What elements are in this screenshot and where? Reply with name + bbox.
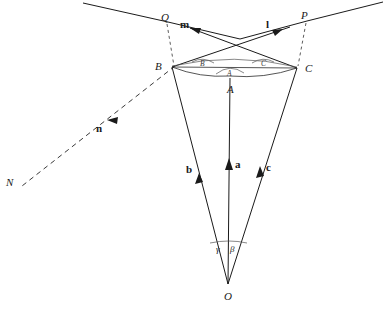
arrowhead-a [225, 158, 233, 170]
vector-label-l: l [266, 19, 269, 30]
point-label-N: N [6, 177, 13, 188]
point-label-A: A [227, 84, 234, 95]
curve-BA [172, 67, 230, 76]
angle-label-A: A [227, 70, 232, 78]
chord-BC [172, 67, 297, 68]
vector-label-b: b [186, 164, 192, 175]
point-label-B: B [155, 61, 162, 72]
arrowhead-m [190, 28, 201, 34]
dashed-segment-QB [167, 24, 174, 66]
vector-label-c: c [266, 162, 271, 173]
arrowhead-l [272, 29, 283, 36]
vector-label-m: m [180, 19, 189, 30]
arrowhead-c [256, 166, 264, 178]
angle-label-gamma: γ [216, 245, 220, 254]
vector-label-n: n [96, 123, 102, 134]
point-label-Q: Q [161, 12, 169, 23]
diagram-canvas [0, 0, 383, 310]
point-label-C: C [305, 63, 312, 74]
curve-CA [230, 68, 297, 77]
ray-through-P-upperright [240, 2, 383, 39]
vector-label-a: a [235, 159, 241, 170]
angle-label-beta: β [230, 245, 234, 254]
point-label-P: P [301, 10, 308, 21]
geometry-diagram: Q P B C A N O m l n b a c B A C γ β [0, 0, 383, 310]
angle-label-C: C [261, 60, 266, 68]
point-label-O: O [224, 291, 232, 302]
angle-label-B: B [200, 60, 205, 68]
vector-line-m [190, 28, 297, 68]
dashed-segment-PC [298, 23, 306, 66]
